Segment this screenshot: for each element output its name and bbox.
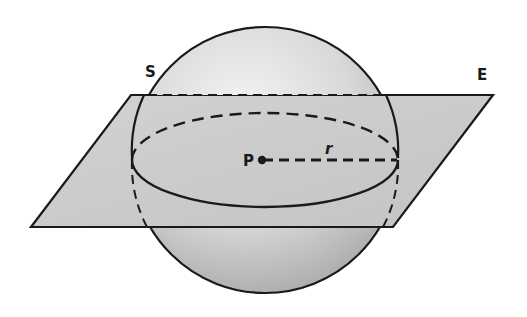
center-point	[258, 156, 266, 164]
label-center: P	[243, 152, 254, 170]
sphere-plane-diagram: S E P r	[0, 0, 527, 317]
label-sphere: S	[145, 63, 156, 81]
label-plane: E	[477, 66, 487, 84]
